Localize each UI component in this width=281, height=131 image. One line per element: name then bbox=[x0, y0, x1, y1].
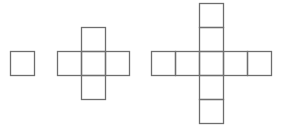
square-cell bbox=[106, 52, 130, 76]
square-cell bbox=[200, 76, 224, 100]
square-cell bbox=[224, 52, 248, 76]
square-cell bbox=[82, 76, 106, 100]
square-cell bbox=[82, 52, 106, 76]
figure-2 bbox=[58, 28, 130, 100]
square-cell bbox=[58, 52, 82, 76]
square-cell bbox=[152, 52, 176, 76]
square-cell bbox=[82, 28, 106, 52]
square-cell bbox=[200, 28, 224, 52]
square-cell bbox=[200, 52, 224, 76]
pattern-diagram bbox=[0, 0, 281, 131]
figure-3 bbox=[152, 4, 272, 124]
square-cell bbox=[11, 52, 35, 76]
figure-1 bbox=[11, 52, 35, 76]
square-cell bbox=[200, 100, 224, 124]
square-cell bbox=[248, 52, 272, 76]
square-cell bbox=[176, 52, 200, 76]
square-cell bbox=[200, 4, 224, 28]
